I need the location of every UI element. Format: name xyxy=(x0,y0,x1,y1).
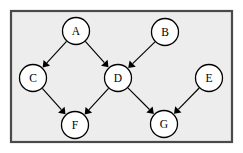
node-label: C xyxy=(29,72,37,84)
node-a[interactable]: A xyxy=(63,18,90,45)
node-b[interactable]: B xyxy=(152,19,179,46)
node-label: E xyxy=(205,72,212,84)
node-label: F xyxy=(72,119,78,131)
graph-svg: ABCDEFG xyxy=(0,0,243,153)
node-label: D xyxy=(114,72,122,84)
node-g[interactable]: G xyxy=(151,111,178,138)
node-f[interactable]: F xyxy=(62,112,89,139)
node-label: B xyxy=(161,26,169,38)
diagram-canvas: ABCDEFG xyxy=(0,0,243,153)
node-d[interactable]: D xyxy=(105,65,132,92)
node-label: A xyxy=(72,25,81,37)
node-c[interactable]: C xyxy=(20,65,47,92)
node-e[interactable]: E xyxy=(196,65,223,92)
node-label: G xyxy=(160,118,168,130)
